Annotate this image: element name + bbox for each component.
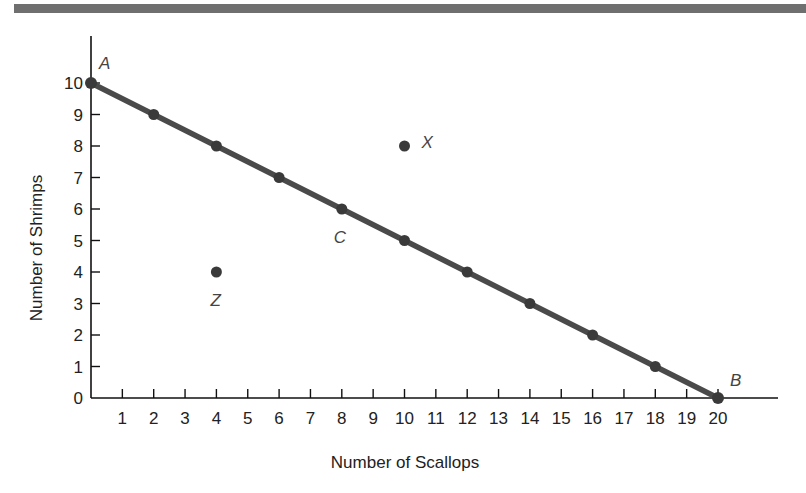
x-tick-label: 2: [149, 409, 158, 428]
y-tick-label: 6: [74, 200, 83, 219]
x-tick-label: 13: [489, 409, 508, 428]
frontier-marker: [524, 298, 535, 309]
frontier-marker: [399, 235, 410, 246]
frontier-marker: [712, 392, 724, 404]
y-axis-title: Number of Shrimps: [27, 175, 46, 321]
frontier-line: [85, 77, 724, 404]
point-label-z: Z: [209, 291, 221, 310]
x-tick-label: 6: [274, 409, 283, 428]
point-z-marker: [211, 267, 222, 278]
x-tick-label: 15: [552, 409, 571, 428]
axes: [91, 36, 778, 398]
x-tick-label: 4: [212, 409, 221, 428]
point-label-c: C: [334, 228, 347, 247]
point-label-b: B: [730, 371, 741, 390]
y-tick-label: 10: [64, 74, 83, 93]
frontier-marker: [211, 141, 222, 152]
x-tick-label: 10: [395, 409, 414, 428]
point-label-a: A: [98, 54, 110, 73]
x-axis-title: Number of Scallops: [331, 453, 479, 472]
x-tick-label: 19: [677, 409, 696, 428]
frontier-marker: [650, 361, 661, 372]
x-tick-label: 18: [646, 409, 665, 428]
frontier-marker: [274, 172, 285, 183]
frontier-marker: [587, 330, 598, 341]
y-tick-label: 1: [74, 358, 83, 377]
x-tick-label: 11: [427, 409, 445, 428]
y-tick-label: 9: [74, 106, 83, 125]
production-possibilities-chart: 1234567891011121314151617181920012345678…: [0, 0, 806, 493]
labeled-points: ABCXZ: [98, 54, 741, 390]
x-tick-label: 5: [243, 409, 252, 428]
y-tick-label: 2: [74, 326, 83, 345]
x-tick-label: 16: [583, 409, 602, 428]
frontier-marker: [85, 77, 97, 89]
frontier-marker: [462, 267, 473, 278]
point-label-x: X: [421, 133, 434, 152]
x-tick-label: 20: [709, 409, 728, 428]
x-tick-label: 8: [337, 409, 346, 428]
y-tick-label: 0: [74, 389, 83, 408]
x-tick-label: 12: [458, 409, 477, 428]
x-tick-label: 17: [614, 409, 633, 428]
y-tick-label: 5: [74, 232, 83, 251]
y-tick-label: 8: [74, 137, 83, 156]
x-tick-label: 3: [180, 409, 189, 428]
frontier-marker: [336, 204, 347, 215]
y-tick-label: 3: [74, 295, 83, 314]
frontier-marker: [148, 109, 159, 120]
y-tick-label: 4: [74, 263, 83, 282]
x-tick-label: 1: [118, 409, 127, 428]
ticks: 1234567891011121314151617181920012345678…: [64, 74, 727, 428]
x-tick-label: 14: [520, 409, 539, 428]
x-tick-label: 9: [368, 409, 377, 428]
point-x-marker: [399, 141, 410, 152]
y-tick-label: 7: [74, 169, 83, 188]
x-tick-label: 7: [306, 409, 315, 428]
